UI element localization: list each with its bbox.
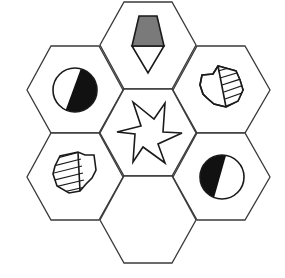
hexagon-puzzle <box>0 0 285 278</box>
half-black-circle-icon <box>53 68 97 112</box>
half-black-circle-icon <box>200 155 244 199</box>
